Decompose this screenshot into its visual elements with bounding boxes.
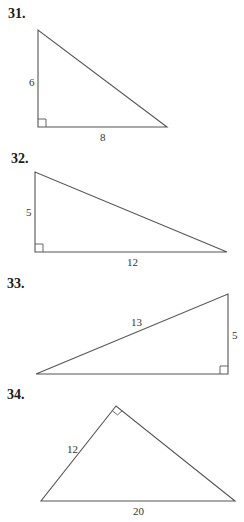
side-label-horizontal: 12 bbox=[127, 256, 138, 268]
right-triangle bbox=[36, 294, 228, 374]
problem-32: 32. 5 12 bbox=[11, 151, 227, 268]
side-label-hypotenuse: 13 bbox=[131, 316, 143, 328]
problem-number: 34. bbox=[7, 387, 25, 402]
problem-34: 34. 12 20 bbox=[7, 387, 235, 517]
right-triangle bbox=[35, 172, 227, 252]
right-triangle bbox=[38, 30, 167, 127]
triangle-exercises: 31. 6 8 32. 5 12 33. 13 5 34. 12 20 bbox=[0, 0, 244, 522]
problem-number: 33. bbox=[7, 276, 25, 291]
side-label-left: 12 bbox=[67, 443, 78, 455]
problem-31: 31. 6 8 bbox=[8, 6, 167, 143]
right-angle-marker bbox=[112, 411, 122, 415]
side-label-horizontal: 8 bbox=[100, 131, 106, 143]
side-label-vertical: 5 bbox=[232, 329, 238, 341]
problem-33: 33. 13 5 bbox=[7, 276, 238, 374]
side-label-vertical: 5 bbox=[26, 206, 32, 218]
side-label-vertical: 6 bbox=[29, 76, 35, 88]
problem-number: 32. bbox=[11, 151, 29, 166]
side-label-hypotenuse: 20 bbox=[133, 505, 145, 517]
problem-number: 31. bbox=[8, 6, 26, 21]
right-angle-marker bbox=[38, 119, 46, 127]
right-angle-marker bbox=[35, 244, 43, 252]
right-angle-marker bbox=[220, 366, 228, 374]
